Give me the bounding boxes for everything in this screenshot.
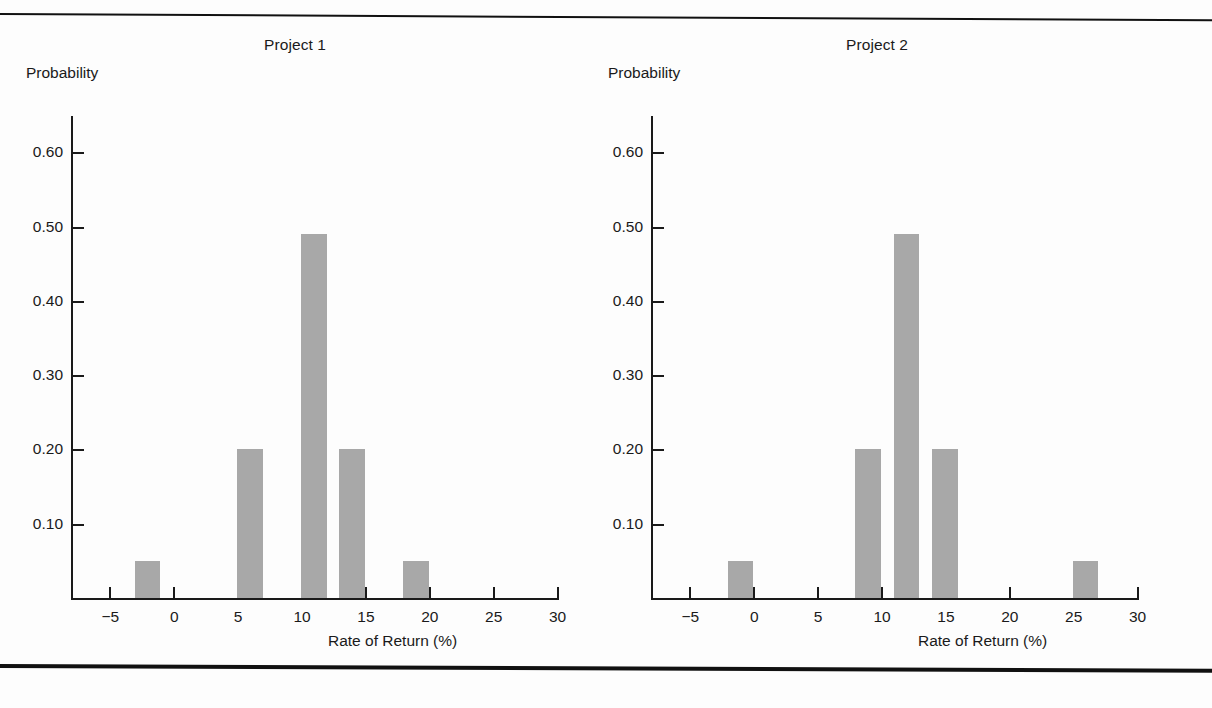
- x-axis-line: [651, 598, 1139, 600]
- x-axis-tick-label: 10: [276, 608, 328, 626]
- x-axis-tick-label: 5: [792, 608, 844, 626]
- x-axis-tick-label: 25: [468, 608, 520, 626]
- x-axis-tick: [365, 587, 367, 598]
- y-axis-tick: [73, 301, 84, 303]
- y-axis-tick: [73, 227, 84, 229]
- x-axis-tick-label: −5: [84, 608, 136, 626]
- x-axis-tick: [173, 587, 175, 598]
- x-axis-tick-label: 15: [920, 608, 972, 626]
- y-axis-tick: [653, 375, 664, 377]
- figure-page: Project 1 Probability Rate of Return (%)…: [0, 0, 1212, 708]
- y-axis-tick: [73, 152, 84, 154]
- y-axis-tick-label: 0.20: [587, 440, 643, 458]
- x-axis-tick: [429, 587, 431, 598]
- y-axis-tick-label: 0.40: [7, 292, 63, 310]
- x-axis-tick-label: 5: [212, 608, 264, 626]
- y-axis-tick-label: 0.10: [7, 515, 63, 533]
- histogram-bar: [135, 561, 161, 598]
- x-axis-tick: [817, 587, 819, 598]
- histogram-bar: [1073, 561, 1099, 598]
- chart-panel-project-1: Project 1 Probability Rate of Return (%)…: [0, 0, 606, 660]
- y-axis-tick: [653, 449, 664, 451]
- histogram-bar: [403, 561, 429, 598]
- y-axis-tick-label: 0.40: [587, 292, 643, 310]
- x-axis-tick-label: 30: [1112, 608, 1164, 626]
- x-axis-tick: [753, 587, 755, 598]
- y-axis-tick: [653, 524, 664, 526]
- y-axis-tick: [73, 524, 84, 526]
- histogram-bar: [237, 449, 263, 598]
- histogram-bar: [301, 234, 327, 598]
- x-axis-tick: [689, 587, 691, 598]
- y-axis-tick-label: 0.60: [587, 143, 643, 161]
- y-axis-tick-label: 0.50: [587, 218, 643, 236]
- y-axis-line: [71, 116, 73, 600]
- y-axis-tick-label: 0.30: [587, 366, 643, 384]
- x-axis-tick: [557, 587, 559, 598]
- bottom-horizontal-rule: [0, 664, 1212, 673]
- histogram-bar: [894, 234, 920, 598]
- x-axis-tick-label: 30: [532, 608, 584, 626]
- x-axis-tick-label: −5: [664, 608, 716, 626]
- x-axis-tick-label: 15: [340, 608, 392, 626]
- x-axis-tick: [1009, 587, 1011, 598]
- x-axis-tick-label: 20: [404, 608, 456, 626]
- x-axis-tick: [1137, 587, 1139, 598]
- y-axis-tick-label: 0.50: [7, 218, 63, 236]
- x-axis-tick-label: 25: [1048, 608, 1100, 626]
- x-axis-tick: [493, 587, 495, 598]
- histogram-bar: [855, 449, 881, 598]
- y-axis-line: [651, 116, 653, 600]
- y-axis-tick: [653, 152, 664, 154]
- y-axis-tick-label: 0.30: [7, 366, 63, 384]
- histogram-bar: [728, 561, 754, 598]
- chart-panel-project-2: Project 2 Probability Rate of Return (%)…: [580, 0, 1212, 660]
- x-axis-tick: [881, 587, 883, 598]
- x-axis-tick: [109, 587, 111, 598]
- x-axis-line: [71, 598, 559, 600]
- y-axis-tick: [653, 227, 664, 229]
- plot-area: 0.100.200.300.400.500.60−5051015202530: [0, 0, 606, 660]
- x-axis-tick-label: 0: [148, 608, 200, 626]
- x-axis-tick-label: 10: [856, 608, 908, 626]
- x-axis-tick-label: 20: [984, 608, 1036, 626]
- plot-area: 0.100.200.300.400.500.60−5051015202530: [580, 0, 1212, 660]
- histogram-bar: [339, 449, 365, 598]
- y-axis-tick-label: 0.20: [7, 440, 63, 458]
- y-axis-tick-label: 0.60: [7, 143, 63, 161]
- x-axis-tick-label: 0: [728, 608, 780, 626]
- y-axis-tick: [73, 375, 84, 377]
- y-axis-tick-label: 0.10: [587, 515, 643, 533]
- y-axis-tick: [73, 449, 84, 451]
- histogram-bar: [932, 449, 958, 598]
- y-axis-tick: [653, 301, 664, 303]
